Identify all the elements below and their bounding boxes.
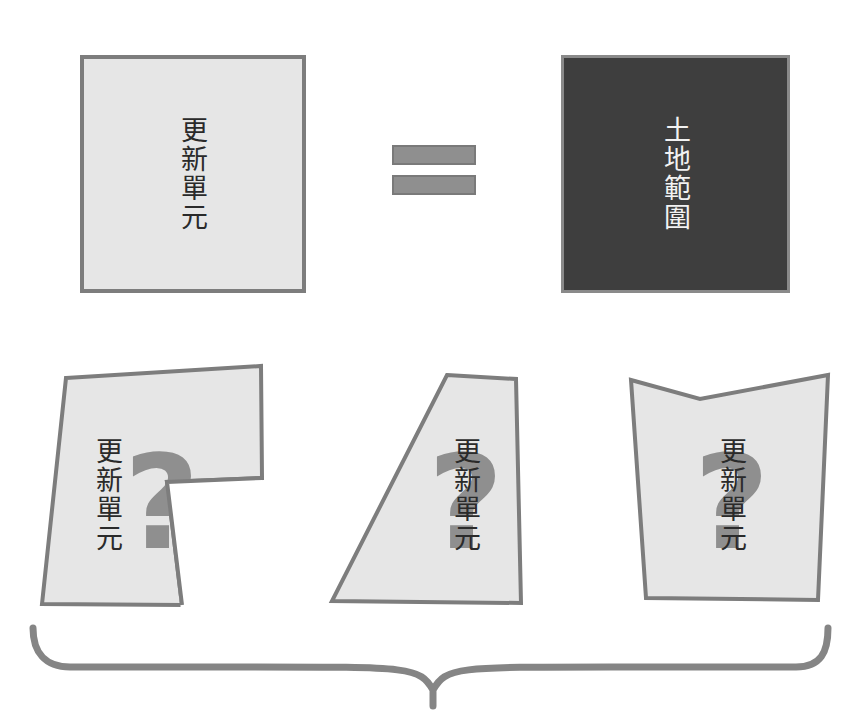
shape-2-label: 更新單元: [452, 437, 479, 553]
irregular-shape-2: ?: [332, 375, 521, 603]
irregular-shapes-layer: ? ? ?: [0, 0, 866, 727]
shape-2-label-wrap: 更新單元: [452, 437, 479, 557]
curly-brace-icon: [33, 628, 828, 706]
shape-1-label-wrap: 更新單元: [94, 437, 121, 557]
shape-3-label: 更新單元: [718, 437, 745, 553]
shape-3-label-wrap: 更新單元: [718, 437, 745, 557]
irregular-shape-1: ?: [42, 366, 262, 620]
shape-1-label: 更新單元: [94, 437, 121, 553]
